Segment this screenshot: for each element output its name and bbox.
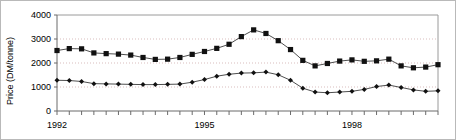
x-tick-label-1992: 1992 bbox=[47, 120, 67, 130]
data-point-marker bbox=[337, 58, 342, 63]
data-point-marker bbox=[227, 72, 232, 77]
data-point-marker bbox=[153, 82, 158, 87]
x-axis-ticks bbox=[57, 111, 438, 115]
x-tick-label-1998: 1998 bbox=[342, 120, 362, 130]
data-point-marker bbox=[202, 77, 207, 82]
data-point-marker bbox=[128, 82, 133, 87]
y-tick-label-1000: 1000 bbox=[31, 82, 51, 92]
data-point-marker bbox=[190, 80, 195, 85]
series-upper-series bbox=[54, 27, 440, 70]
data-point-marker bbox=[79, 79, 84, 84]
data-point-marker bbox=[313, 90, 318, 95]
price-chart-figure: Price (DM/tonne) 01000200030004000 19921… bbox=[0, 0, 456, 140]
data-point-marker bbox=[55, 78, 60, 83]
data-point-marker bbox=[399, 63, 404, 68]
data-point-marker bbox=[79, 46, 84, 51]
data-point-marker bbox=[423, 64, 428, 69]
data-point-marker bbox=[337, 90, 342, 95]
data-point-marker bbox=[67, 46, 72, 51]
data-point-marker bbox=[153, 57, 158, 62]
data-point-marker bbox=[165, 82, 170, 87]
data-point-marker bbox=[288, 47, 293, 52]
data-point-marker bbox=[374, 84, 379, 89]
data-point-marker bbox=[325, 90, 330, 95]
data-point-marker bbox=[116, 52, 121, 57]
y-tick-label-4000: 4000 bbox=[31, 10, 51, 20]
data-point-marker bbox=[177, 55, 182, 60]
data-point-marker bbox=[141, 82, 146, 87]
data-point-marker bbox=[399, 85, 404, 90]
data-point-marker bbox=[374, 58, 379, 63]
data-point-marker bbox=[325, 61, 330, 66]
data-point-marker bbox=[177, 82, 182, 87]
data-point-marker bbox=[263, 31, 268, 36]
data-point-marker bbox=[214, 74, 219, 79]
y-tick-label-3000: 3000 bbox=[31, 34, 51, 44]
data-point-marker bbox=[202, 49, 207, 54]
data-point-marker bbox=[239, 34, 244, 39]
data-point-marker bbox=[423, 89, 428, 94]
y-tick-label-2000: 2000 bbox=[31, 58, 51, 68]
data-point-marker bbox=[349, 57, 354, 62]
data-point-marker bbox=[435, 62, 440, 67]
data-point-marker bbox=[386, 57, 391, 62]
data-point-marker bbox=[67, 78, 72, 83]
data-point-marker bbox=[104, 81, 109, 86]
series-line-lower-series bbox=[57, 72, 438, 93]
data-point-marker bbox=[165, 57, 170, 62]
data-point-marker bbox=[251, 27, 256, 32]
data-point-marker bbox=[300, 58, 305, 63]
gridlines-group bbox=[57, 39, 438, 87]
data-point-marker bbox=[214, 46, 219, 51]
data-point-marker bbox=[263, 70, 268, 75]
data-point-marker bbox=[104, 51, 109, 56]
series-line-upper-series bbox=[57, 30, 438, 68]
series-lower-series bbox=[55, 70, 441, 96]
data-point-marker bbox=[362, 59, 367, 64]
data-point-marker bbox=[239, 71, 244, 76]
chart-plot-area: 01000200030004000 199219951998 bbox=[1, 1, 456, 140]
data-point-marker bbox=[91, 50, 96, 55]
y-axis-tick-labels: 01000200030004000 bbox=[31, 10, 57, 116]
data-point-marker bbox=[411, 65, 416, 70]
x-axis-tick-labels: 199219951998 bbox=[47, 120, 362, 130]
data-point-marker bbox=[54, 48, 59, 53]
y-tick-label-0: 0 bbox=[46, 106, 51, 116]
data-point-marker bbox=[140, 55, 145, 60]
data-point-marker bbox=[300, 86, 305, 91]
data-point-marker bbox=[349, 89, 354, 94]
data-point-marker bbox=[436, 88, 441, 93]
data-point-marker bbox=[91, 81, 96, 86]
data-point-marker bbox=[276, 72, 281, 77]
data-series-group bbox=[54, 27, 440, 95]
data-point-marker bbox=[362, 87, 367, 92]
data-point-marker bbox=[226, 42, 231, 47]
data-point-marker bbox=[313, 63, 318, 68]
data-point-marker bbox=[288, 78, 293, 83]
data-point-marker bbox=[190, 52, 195, 57]
data-point-marker bbox=[411, 87, 416, 92]
x-tick-label-1995: 1995 bbox=[194, 120, 214, 130]
data-point-marker bbox=[276, 38, 281, 43]
data-point-marker bbox=[251, 70, 256, 75]
data-point-marker bbox=[128, 52, 133, 57]
data-point-marker bbox=[116, 82, 121, 87]
